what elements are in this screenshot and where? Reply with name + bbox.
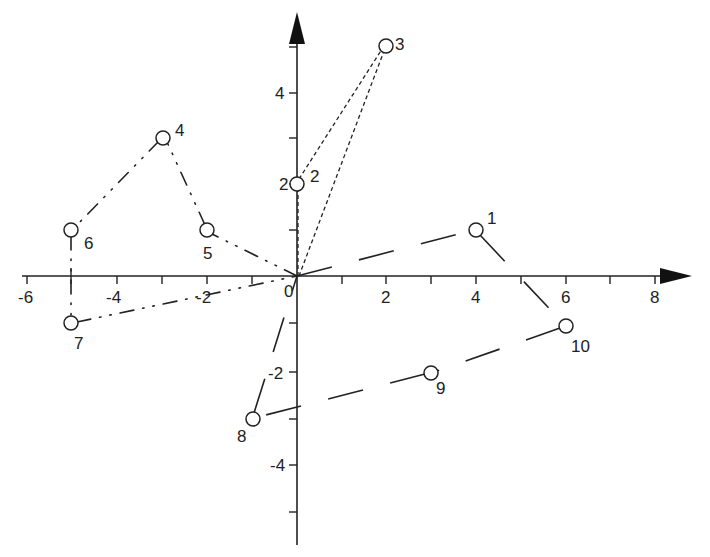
point-5	[200, 223, 214, 237]
x-tick-label: -6	[18, 288, 33, 307]
point-label: 5	[203, 244, 212, 263]
polygon-long-dash-path	[254, 231, 561, 417]
axes: -6 -4 -2 0 2 4 6 8 4 2 -2 -4	[18, 12, 692, 545]
point-label: 1	[487, 209, 496, 228]
point-9	[424, 366, 438, 380]
point-4	[156, 131, 170, 145]
point-label: 8	[237, 427, 246, 446]
point-labels: 1 2 3 4 5 6 7 8 9 10	[74, 35, 590, 446]
point-7	[64, 316, 78, 330]
x-tick-label: 6	[561, 288, 570, 307]
point-8	[246, 412, 260, 426]
x-tick-labels: -6 -4 -2 0 2 4 6 8	[18, 282, 659, 307]
x-tick-label: -4	[106, 288, 121, 307]
y-tick-label: -2	[268, 364, 283, 383]
x-tick-label: 4	[471, 288, 480, 307]
point-2	[290, 177, 304, 191]
y-tick-label: 2	[279, 175, 288, 194]
point-10	[559, 319, 573, 333]
coordinate-plane: -6 -4 -2 0 2 4 6 8 4 2 -2 -4	[0, 0, 710, 557]
x-axis-arrow-icon	[660, 268, 692, 284]
x-tick-label: -2	[196, 288, 211, 307]
data-points	[64, 39, 573, 426]
triangle-short-dash-path	[298, 49, 384, 276]
point-6	[64, 223, 78, 237]
y-tick-labels: 4 2 -2 -4	[268, 84, 288, 475]
x-tick-label: 8	[650, 288, 659, 307]
point-label: 4	[175, 121, 184, 140]
y-tick-label: -4	[270, 456, 285, 475]
x-tick-label: 2	[381, 288, 390, 307]
point-label: 7	[74, 334, 83, 353]
point-1	[469, 223, 483, 237]
point-3	[379, 39, 393, 53]
point-label: 3	[395, 35, 404, 54]
point-label: 2	[310, 167, 319, 186]
y-tick-label: 4	[275, 84, 284, 103]
y-axis-arrow-icon	[289, 12, 305, 44]
x-tick-label: 0	[284, 282, 293, 301]
pentagon-dash-dot-path	[71, 141, 297, 322]
point-label: 9	[436, 379, 445, 398]
point-label: 6	[84, 234, 93, 253]
point-label: 10	[571, 337, 590, 356]
